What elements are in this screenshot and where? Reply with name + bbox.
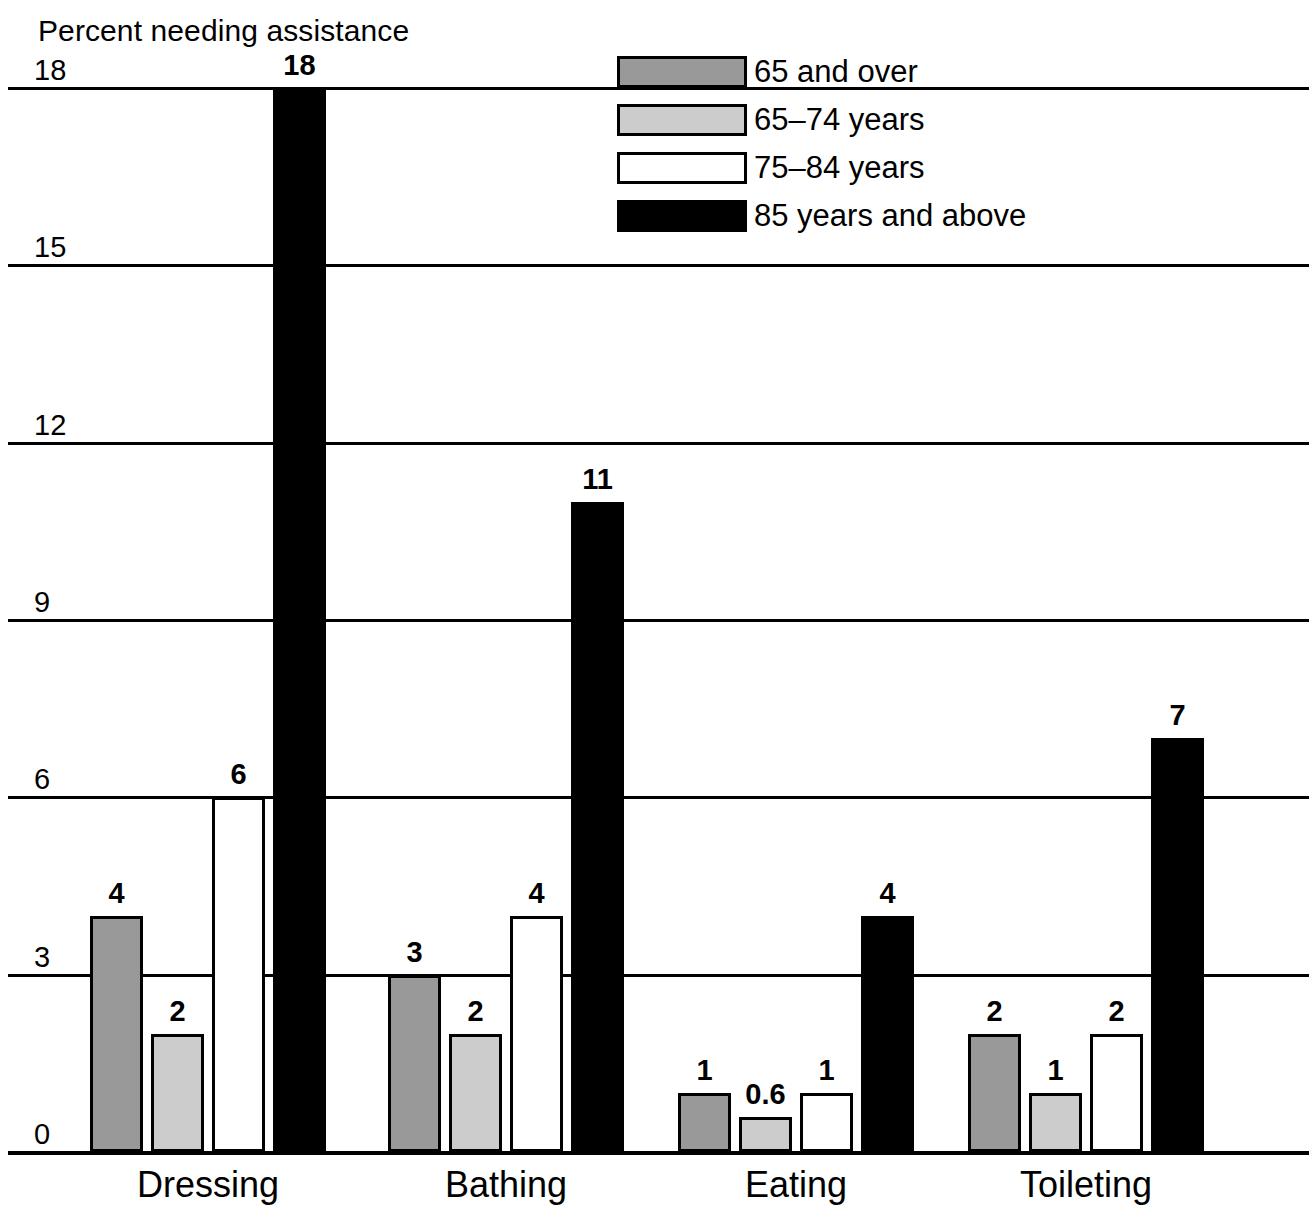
- bar-value-label-eating-series-3: 4: [837, 878, 938, 908]
- y-tick-label-18: 18: [34, 55, 66, 85]
- legend-label-0: 65 and over: [754, 52, 918, 92]
- bar-value-label-bathing-series-3: 11: [547, 464, 648, 494]
- bar-bathing-series-1: [449, 1034, 502, 1152]
- bar-eating-series-3: [861, 916, 914, 1152]
- bars-group: 426183241110.6142127: [0, 88, 1309, 1152]
- bar-toileting-series-2: [1090, 1034, 1143, 1152]
- legend-label-3: 85 years and above: [754, 196, 1026, 236]
- legend-label-2: 75–84 years: [754, 148, 925, 188]
- chart-axis-title: Percent needing assistance: [38, 14, 409, 48]
- bar-dressing-series-3: [273, 88, 326, 1152]
- bar-bathing-series-3: [571, 502, 624, 1152]
- bar-value-label-toileting-series-3: 7: [1127, 700, 1228, 730]
- bar-bathing-series-2: [510, 916, 563, 1152]
- category-label-toileting: Toileting: [908, 1163, 1264, 1207]
- bar-toileting-series-3: [1151, 738, 1204, 1152]
- plot-area: 0369121518 426183241110.6142127: [0, 88, 1309, 1152]
- bar-dressing-series-2: [212, 797, 265, 1152]
- bar-value-label-dressing-series-0: 4: [66, 878, 167, 908]
- bar-toileting-series-0: [968, 1034, 1021, 1152]
- bar-value-label-toileting-series-0: 2: [944, 996, 1045, 1026]
- legend-label-1: 65–74 years: [754, 100, 925, 140]
- bar-toileting-series-1: [1029, 1093, 1082, 1152]
- bar-value-label-dressing-series-3: 18: [249, 50, 350, 80]
- bar-eating-series-1: [739, 1117, 792, 1152]
- bar-value-label-bathing-series-0: 3: [364, 937, 465, 967]
- bar-chart: Percent needing assistance 0369121518 42…: [0, 0, 1309, 1218]
- legend-swatch-icon-1: [617, 104, 747, 136]
- bar-eating-series-2: [800, 1093, 853, 1152]
- legend-swatch-icon-0: [617, 56, 747, 88]
- legend-swatch-icon-3: [617, 200, 747, 232]
- bar-dressing-series-1: [151, 1034, 204, 1152]
- legend-swatch-icon-2: [617, 152, 747, 184]
- bar-dressing-series-0: [90, 916, 143, 1152]
